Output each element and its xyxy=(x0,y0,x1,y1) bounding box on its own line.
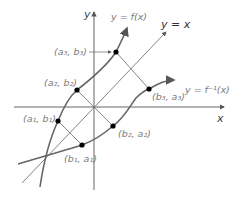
label-b2-a2: (b₂, a₂) xyxy=(118,129,151,139)
label-b3-a3: (b₃, a₃) xyxy=(152,92,185,102)
label-a3-b3: (a₃, b₃) xyxy=(54,47,87,57)
connector-2 xyxy=(77,90,113,126)
inverse-function-diagram: y x y = f(x) y = f⁻¹(x) y = x (a₃, b₃) (… xyxy=(0,0,241,199)
f-label: y = f(x) xyxy=(111,12,147,22)
point-b3-a3 xyxy=(146,86,151,91)
point-b1-a1 xyxy=(79,142,84,147)
y-axis-label: y xyxy=(84,9,91,20)
point-a2-b2 xyxy=(74,87,79,92)
point-a3-b3 xyxy=(113,49,118,54)
label-a2-b2: (a₂, b₂) xyxy=(44,78,77,88)
diagram-canvas xyxy=(0,0,241,199)
identity-label: y = x xyxy=(161,19,190,30)
connector-3 xyxy=(116,52,149,89)
x-axis-label: x xyxy=(217,113,224,124)
label-b1-a1: (b₁, a₁) xyxy=(64,154,97,164)
point-a1-b1 xyxy=(55,118,60,123)
label-a1-b1: (a₁, b₁) xyxy=(23,114,56,124)
point-b2-a2 xyxy=(110,123,115,128)
f-inverse-label: y = f⁻¹(x) xyxy=(185,85,230,95)
